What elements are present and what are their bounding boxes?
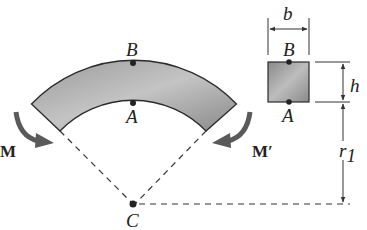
label-A-section: A: [282, 106, 294, 125]
dimension-h-r1: [315, 62, 350, 202]
label-M-prime: M′: [252, 143, 273, 160]
label-M: M: [0, 143, 16, 160]
label-b: b: [283, 4, 293, 23]
label-r1: r1: [338, 141, 357, 160]
label-r-subscript: 1: [346, 145, 356, 166]
label-A-curved: A: [126, 107, 138, 126]
radial-dashed-lines: [60, 131, 350, 204]
point-B-curved: [130, 60, 136, 66]
point-C: [130, 201, 137, 208]
cross-section: [268, 59, 309, 105]
label-B-section: B: [283, 40, 295, 59]
label-h: h: [350, 76, 360, 95]
label-B-curved: B: [126, 40, 138, 59]
curved-beam-diagram: [0, 0, 367, 230]
label-C: C: [126, 211, 139, 230]
